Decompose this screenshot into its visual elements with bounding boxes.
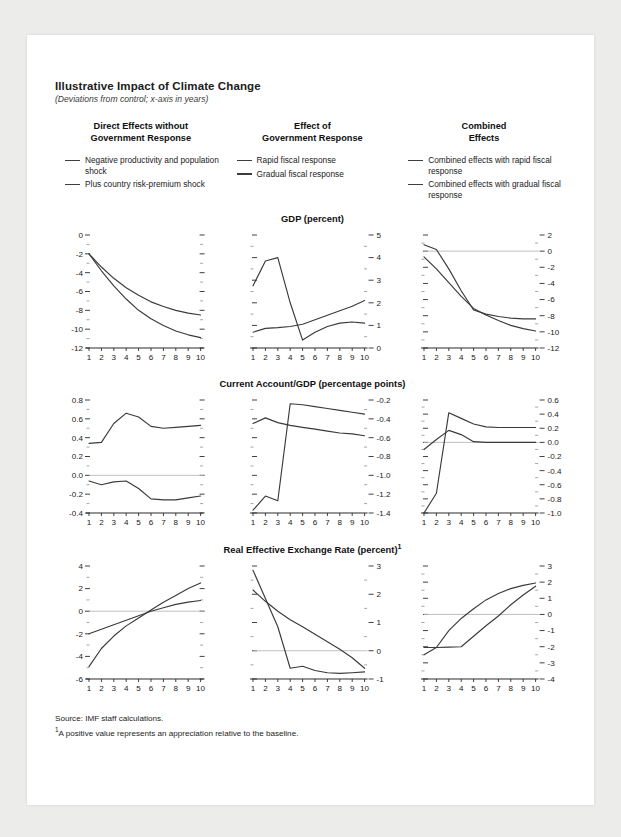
page-title: Illustrative Impact of Climate Change [55,80,570,92]
y-tick-label: -1.0 [548,509,562,518]
x-tick-label: 9 [521,353,526,362]
y-tick-label: 5 [376,231,381,240]
x-tick-label: 10 [360,518,369,527]
y-tick-label: -0.6 [376,434,390,443]
y-tick-label: -3 [548,659,556,668]
chart-row-reer: 420-2-4-612345678910 3210-112345678910 3… [55,556,570,699]
x-tick-label: 2 [99,684,104,693]
x-tick-label: 10 [196,353,205,362]
x-tick-label: 7 [161,684,166,693]
x-tick-label: 2 [99,518,104,527]
y-tick-label: 4 [78,562,83,571]
y-tick-label: -0.2 [69,490,83,499]
x-tick-label: 5 [472,518,477,527]
y-tick-label: 2 [548,578,553,587]
x-tick-label: 3 [112,684,117,693]
series-line-2 [424,430,536,449]
series-line-1 [424,583,536,655]
x-tick-label: 7 [161,353,166,362]
x-tick-label: 5 [472,353,477,362]
x-tick-label: 2 [434,353,439,362]
x-tick-label: 2 [434,684,439,693]
y-tick-label: -0.4 [548,467,562,476]
x-tick-label: 4 [124,684,129,693]
x-tick-label: 5 [136,518,141,527]
x-tick-label: 5 [472,684,477,693]
column-combined-effects: Combined Effects Combined effects with r… [398,120,570,203]
x-tick-label: 10 [196,518,205,527]
y-tick-label: -0.4 [376,415,390,424]
y-tick-label: 3 [376,562,381,571]
x-tick-label: 4 [288,353,293,362]
y-tick-label: -2 [76,630,84,639]
series-line-2 [253,301,365,333]
chart-svg: 3210-1-2-3-412345678910 [398,556,570,699]
x-tick-label: 7 [325,518,330,527]
column-heading: Direct Effects without Government Respon… [55,120,227,146]
x-tick-label: 7 [496,518,501,527]
figure-page: Illustrative Impact of Climate Change (D… [0,0,621,837]
chart-svg: 3210-112345678910 [227,556,399,699]
y-tick-label: 0.2 [72,452,84,461]
x-tick-label: 2 [99,353,104,362]
x-tick-label: 10 [531,353,540,362]
legend-label: Negative productivity and population sho… [85,155,227,176]
y-tick-label: 0 [78,607,83,616]
y-tick-label: 1 [376,321,381,330]
x-tick-label: 8 [509,684,514,693]
chart-ca-direct: 0.80.60.40.20.0-0.2-0.412345678910 [55,390,227,533]
y-tick-label: 2 [376,590,381,599]
line-swatch-icon [408,184,423,186]
y-tick-label: -6 [76,287,84,296]
x-tick-label: 6 [312,518,317,527]
x-tick-label: 3 [447,518,452,527]
x-tick-label: 3 [275,353,280,362]
legend-label: Plus country risk-premium shock [85,179,205,190]
y-tick-label: 0 [548,247,553,256]
y-tick-label: -1 [548,627,556,636]
chart-svg: 0-2-4-6-8-10-1212345678910 [55,225,227,368]
x-tick-label: 8 [509,353,514,362]
series-line-1 [253,570,365,673]
legend-label: Rapid fiscal response [257,155,336,166]
x-tick-label: 4 [459,353,464,362]
y-tick-label: -0.8 [548,495,562,504]
legend-combined-effects: Combined effects with rapid fiscal respo… [398,155,570,200]
legend-item: Combined effects with rapid fiscal respo… [408,155,570,176]
chart-reer-combined: 3210-1-2-3-412345678910 [398,556,570,699]
column-headers-row: Direct Effects without Government Respon… [55,120,570,203]
line-swatch-icon [408,160,423,162]
x-tick-label: 7 [161,518,166,527]
series-line-2 [424,586,536,647]
x-tick-label: 8 [337,684,342,693]
column-government-response: Effect of Government Response Rapid fisc… [227,120,399,203]
x-tick-label: 7 [325,684,330,693]
chart-gdp-government: 54321012345678910 [227,225,399,368]
x-tick-label: 7 [325,353,330,362]
series-line-1 [89,413,201,443]
x-tick-label: 9 [521,518,526,527]
y-tick-label: -0.6 [548,481,562,490]
x-tick-label: 9 [186,518,191,527]
chart-svg: 20-2-4-6-8-10-1212345678910 [398,225,570,368]
y-tick-label: -4 [548,675,556,684]
x-tick-label: 9 [186,353,191,362]
x-tick-label: 10 [196,684,205,693]
chart-reer-direct: 420-2-4-612345678910 [55,556,227,699]
chart-reer-government: 3210-112345678910 [227,556,399,699]
y-tick-label: -4 [76,652,84,661]
chart-row-current-account: 0.80.60.40.20.0-0.2-0.412345678910 -0.2-… [55,390,570,533]
chart-svg: 420-2-4-612345678910 [55,556,227,699]
y-tick-label: -2 [548,643,556,652]
y-tick-label: 0.6 [72,415,84,424]
y-tick-label: -10 [71,325,83,334]
x-tick-label: 5 [300,684,305,693]
line-swatch-icon [237,173,252,175]
x-tick-label: 6 [149,684,154,693]
x-tick-label: 1 [422,684,427,693]
y-tick-label: -12 [71,344,83,353]
y-tick-label: 2 [78,585,83,594]
x-tick-label: 9 [521,684,526,693]
x-tick-label: 1 [250,353,255,362]
figure-container: Illustrative Impact of Climate Change (D… [55,80,570,780]
